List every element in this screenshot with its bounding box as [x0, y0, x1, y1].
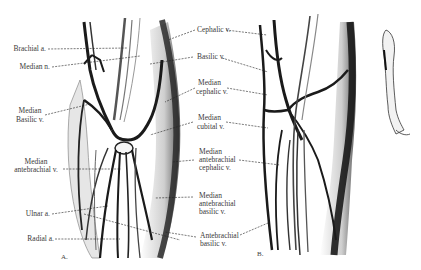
label-median-cubital-vein-line2: cubital v. — [197, 123, 224, 132]
label-median-cephalic-vein-line2: cephalic v. — [196, 88, 228, 97]
arm-inset-drawing — [383, 30, 410, 135]
label-antebrachial-basilic-vein-line2: basilic v. — [200, 240, 227, 249]
panel-label-b: B. — [257, 250, 263, 258]
label-median-antebrachial-cephalic-vein-line3: cephalic v. — [199, 164, 231, 173]
label-median-antebrachial-vein-line2: antebrachial v. — [10, 166, 62, 175]
label-basilic-vein: Basilic v. — [197, 53, 225, 62]
anatomy-figure — [0, 0, 421, 270]
panel-label-a: A. — [61, 253, 68, 261]
label-median-nerve: Median n. — [6, 63, 50, 72]
label-median-basilic-vein-line2: Basilic v. — [14, 116, 46, 125]
label-ulnar-artery: Ulnar a. — [10, 210, 50, 219]
label-cephalic-vein: Cephalic v. — [197, 26, 231, 35]
label-median-antebrachial-basilic-vein-line3: basilic v. — [199, 208, 226, 217]
panel-a-drawing — [68, 18, 180, 258]
panel-b-drawing — [260, 14, 356, 255]
label-radial-artery: Radial a. — [10, 235, 54, 244]
label-brachial-artery: Brachial a. — [6, 45, 46, 54]
